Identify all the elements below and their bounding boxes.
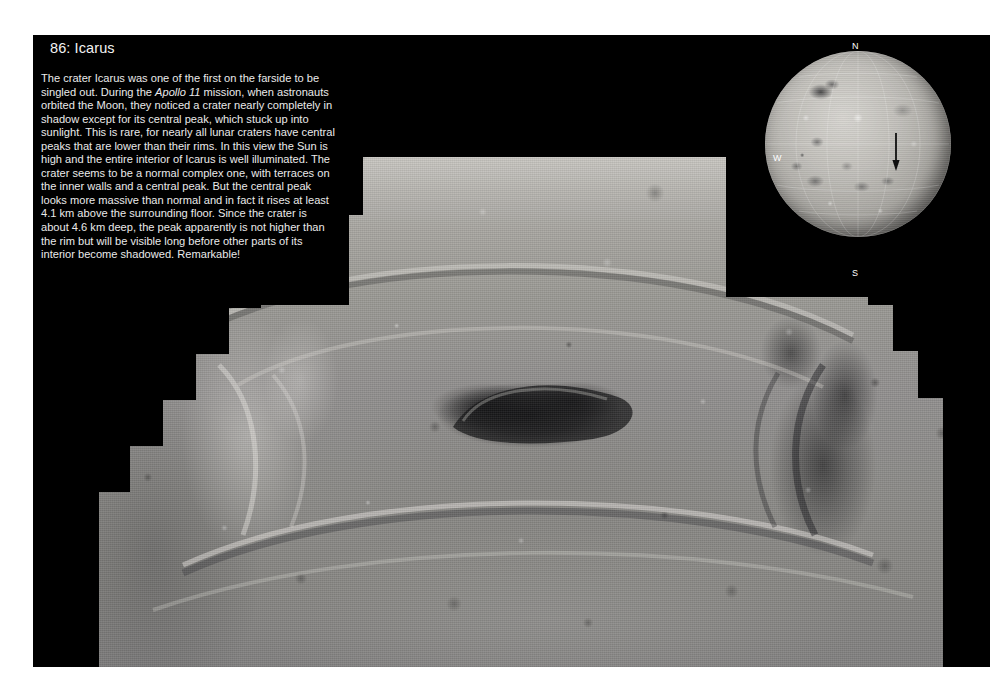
crater-location-arrow-icon (891, 133, 901, 171)
mosaic-step-left-5 (33, 354, 196, 400)
caption-block: 86: Icarus The crater Icarus was one of … (41, 40, 337, 262)
moon-globe-inset: N S W E (726, 35, 990, 297)
page-root: 86: Icarus The crater Icarus was one of … (0, 0, 990, 695)
mosaic-step-right-8 (943, 398, 990, 667)
caption-mission-name: Apollo 11 (155, 86, 200, 98)
mosaic-step-left-8 (33, 492, 99, 667)
photo-plate: 86: Icarus The crater Icarus was one of … (33, 35, 990, 667)
page-title: 86: Icarus (50, 40, 337, 56)
compass-label-south: S (852, 269, 858, 278)
globe-scanline-grain (765, 51, 951, 237)
mosaic-step-left-7 (33, 446, 130, 492)
mosaic-step-right-6 (893, 305, 990, 351)
mosaic-step-left-6 (33, 400, 163, 446)
mosaic-step-left-4 (33, 308, 229, 354)
compass-label-west: W (773, 154, 782, 163)
caption-text-part2: mission, when astronauts orbited the Moo… (41, 86, 335, 261)
moon-globe-sphere (765, 51, 951, 237)
mosaic-step-right-7 (918, 351, 990, 398)
compass-label-north: N (852, 42, 859, 51)
caption-text: The crater Icarus was one of the first o… (41, 72, 337, 262)
